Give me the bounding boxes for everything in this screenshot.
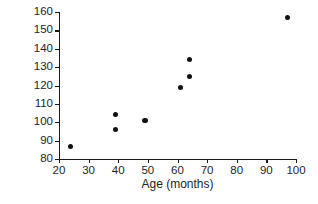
data-point: [142, 118, 147, 123]
x-tick-mark: [237, 159, 238, 163]
data-point: [178, 85, 183, 90]
y-tick-label: 160: [34, 6, 53, 18]
x-tick-mark: [118, 159, 119, 163]
y-tick-mark: [55, 49, 59, 50]
x-tick-label: 100: [286, 165, 305, 177]
y-tick-mark: [55, 86, 59, 87]
y-tick-mark: [55, 12, 59, 13]
x-tick-label: 20: [53, 165, 66, 177]
plot-area: 8090100110120130140150160 20304050607080…: [59, 12, 296, 160]
x-tick-label: 60: [171, 165, 184, 177]
x-tick-label: 80: [230, 165, 243, 177]
data-point: [68, 144, 73, 149]
x-tick-mark: [89, 159, 90, 163]
x-tick-mark: [178, 159, 179, 163]
x-tick-label: 40: [112, 165, 125, 177]
x-tick-label: 90: [260, 165, 273, 177]
y-tick-mark: [55, 104, 59, 105]
x-tick-label: 30: [82, 165, 95, 177]
x-tick-mark: [148, 159, 149, 163]
y-tick-label: 110: [35, 98, 53, 110]
y-axis-line: [59, 12, 60, 160]
data-point: [113, 127, 118, 132]
y-tick-mark: [55, 141, 59, 142]
data-point: [187, 57, 192, 62]
y-tick-mark: [55, 122, 59, 123]
y-tick-label: 90: [40, 135, 53, 147]
x-tick-mark: [59, 159, 60, 163]
x-tick-mark: [266, 159, 267, 163]
y-tick-label: 100: [34, 117, 53, 129]
y-tick-label: 80: [40, 153, 53, 165]
y-tick-label: 150: [34, 25, 53, 37]
x-tick-mark: [296, 159, 297, 163]
scatter-chart-figure: 8090100110120130140150160 20304050607080…: [0, 0, 318, 204]
data-point: [187, 74, 192, 79]
x-tick-mark: [207, 159, 208, 163]
y-tick-label: 130: [34, 61, 53, 73]
x-tick-label: 50: [141, 165, 154, 177]
x-axis-label: Age (months): [59, 178, 296, 190]
y-tick-mark: [55, 30, 59, 31]
data-point: [285, 15, 290, 20]
y-tick-label: 140: [34, 43, 53, 55]
data-point: [113, 112, 118, 117]
y-tick-mark: [55, 67, 59, 68]
x-tick-label: 70: [201, 165, 214, 177]
y-tick-label: 120: [34, 80, 53, 92]
